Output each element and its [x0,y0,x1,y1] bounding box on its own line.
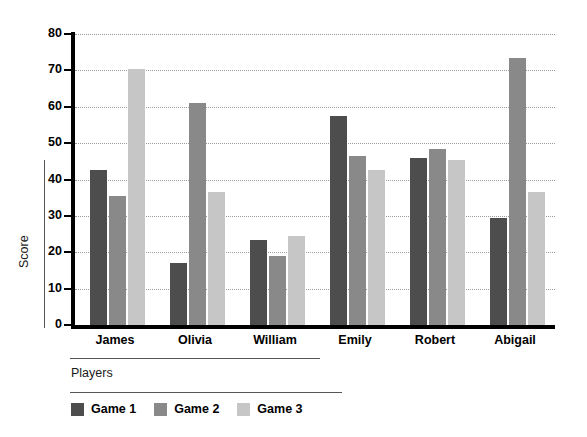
gridline [75,289,555,290]
y-tick-label-wrap: 60 [28,100,62,114]
y-tick-mark [64,215,72,217]
x-axis-title: Players [71,366,113,380]
y-tick-label: 80 [32,27,62,40]
bar [189,103,206,325]
y-tick-label: 50 [32,136,62,149]
legend-item[interactable]: Game 1 [71,402,136,416]
x-axis-category-label: Emily [315,333,395,347]
bar [170,263,187,325]
y-tick-label: 60 [32,100,62,113]
bar [368,170,385,325]
bar-group [410,34,465,325]
bar [109,196,126,325]
gridline [75,252,555,253]
y-tick-label-wrap: 30 [28,209,62,223]
y-tick-label: 0 [32,318,62,331]
legend-swatch-icon [71,403,84,416]
bar [490,218,507,325]
bar [250,240,267,325]
gridline [75,180,555,181]
legend-label: Game 3 [257,402,302,416]
gridline [75,107,555,108]
x-axis-line [71,325,555,329]
x-axis-category-label: James [75,333,155,347]
gridline [75,216,555,217]
bar [269,256,286,325]
legend-rule [70,392,342,393]
y-tick-mark [64,324,72,326]
bar [288,236,305,325]
y-tick-mark [64,33,72,35]
bar [509,58,526,325]
gridline [75,143,555,144]
y-tick-label-wrap: 10 [28,282,62,296]
bar-group [250,34,305,325]
bar [128,69,145,325]
bar-group [490,34,545,325]
bar [528,192,545,325]
bar [208,192,225,325]
x-axis-category-label: William [235,333,315,347]
bar [448,160,465,326]
x-axis-category-label: Abigail [475,333,555,347]
y-tick-mark [64,69,72,71]
y-tick-mark [64,288,72,290]
legend-swatch-icon [154,403,167,416]
bar [429,149,446,325]
x-axis-category-label: Robert [395,333,475,347]
bar [349,156,366,325]
y-tick-label-wrap: 0 [28,318,62,332]
y-tick-label: 10 [32,282,62,295]
y-tick-mark [64,106,72,108]
y-tick-label: 40 [32,173,62,186]
y-tick-label-wrap: 50 [28,136,62,150]
y-tick-mark [64,142,72,144]
legend-item[interactable]: Game 2 [154,402,219,416]
gridline [75,70,555,71]
bar-chart: Score 01020304050607080 JamesOliviaWilli… [0,0,587,437]
bar [410,158,427,325]
legend: Game 1Game 2Game 3 [71,402,303,416]
y-tick-mark [64,251,72,253]
y-tick-mark [64,179,72,181]
y-tick-label: 30 [32,209,62,222]
bar-group [170,34,225,325]
y-tick-label-wrap: 40 [28,173,62,187]
y-tick-label-wrap: 20 [28,245,62,259]
y-tick-label-wrap: 70 [28,63,62,77]
plot-area [75,34,555,325]
x-axis-rule [70,358,320,359]
y-tick-label: 70 [32,63,62,76]
bar [90,170,107,325]
legend-label: Game 1 [91,402,136,416]
gridline [75,34,555,35]
legend-label: Game 2 [174,402,219,416]
x-axis-category-label: Olivia [155,333,235,347]
bar-group [90,34,145,325]
y-tick-label: 20 [32,245,62,258]
legend-item[interactable]: Game 3 [237,402,302,416]
y-tick-label-wrap: 80 [28,27,62,41]
legend-swatch-icon [237,403,250,416]
bar-group [330,34,385,325]
bar [330,116,347,325]
